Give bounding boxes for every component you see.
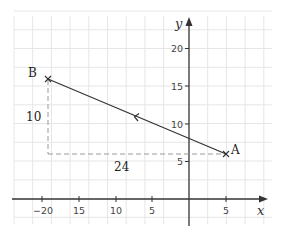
x-axis-label: x: [257, 203, 265, 218]
y-axis-label: y: [174, 16, 183, 31]
coordinate-diagram: x y −20 15 10 5 5 5 10 15 20 B A: [0, 0, 284, 234]
vertical-dimension-label: 10: [26, 110, 41, 124]
y-tick-label: 15: [171, 81, 183, 92]
point-b-label: B: [28, 66, 37, 80]
x-tick-label: 10: [110, 205, 122, 216]
x-tick-label: 5: [223, 205, 229, 216]
horizontal-dimension-label: 24: [114, 160, 130, 174]
y-tick-label: 5: [177, 156, 183, 167]
y-tick-label: 10: [171, 119, 183, 130]
grid: [14, 11, 272, 224]
y-tick-label: 20: [171, 43, 183, 54]
x-tick-label: 15: [73, 205, 85, 216]
x-tick-label: −20: [33, 205, 53, 216]
y-axis-arrow-icon: [186, 17, 193, 26]
x-tick-label: 5: [149, 205, 155, 216]
point-a-label: A: [230, 143, 240, 157]
